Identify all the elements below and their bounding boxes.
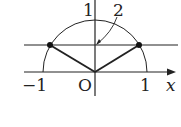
y-tick-label-1: 1 xyxy=(83,0,94,20)
leader-arrow-icon xyxy=(96,39,101,45)
origin-label: O xyxy=(78,75,92,95)
semicircle-figure: 1 2 −1 O 1 x xyxy=(0,0,181,127)
segment-left xyxy=(50,45,95,72)
intersection-point-left xyxy=(47,42,53,48)
x-tick-label-neg1: −1 xyxy=(22,75,47,95)
intersection-point-right xyxy=(136,42,142,48)
diagram: 1 2 −1 O 1 x xyxy=(0,0,181,127)
annotation-label: 2 xyxy=(113,0,124,20)
segment-right xyxy=(95,45,139,72)
x-tick-label-1: 1 xyxy=(140,75,151,95)
x-axis-label: x xyxy=(166,75,176,95)
